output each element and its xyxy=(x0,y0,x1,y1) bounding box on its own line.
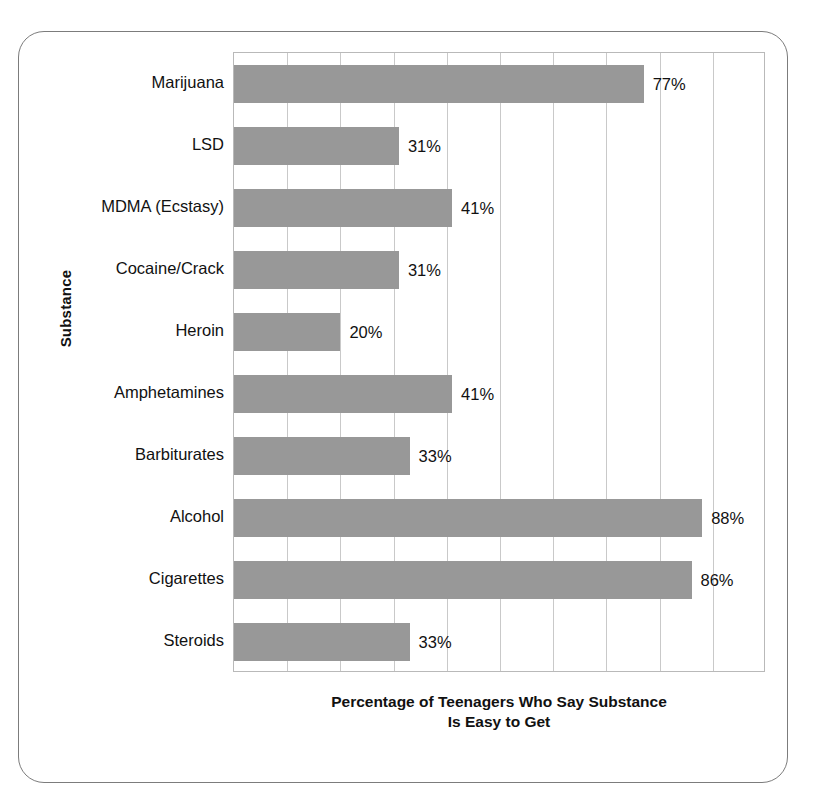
bar xyxy=(234,65,644,103)
y-axis-tick-label: LSD xyxy=(60,136,224,153)
bar xyxy=(234,437,410,475)
bar xyxy=(234,561,692,599)
bar-value-label: 33% xyxy=(410,623,452,661)
bar xyxy=(234,313,340,351)
y-axis-tick-label: Amphetamines xyxy=(60,384,224,401)
plot-area: 77%31%41%31%20%41%33%88%86%33% xyxy=(233,52,765,672)
bar-value-label: 86% xyxy=(692,561,734,599)
bar-value-label: 20% xyxy=(340,313,382,351)
bar xyxy=(234,251,399,289)
y-axis-tick-label: Alcohol xyxy=(60,508,224,525)
bar xyxy=(234,375,452,413)
x-axis-title-line-1: Percentage of Teenagers Who Say Substanc… xyxy=(331,693,667,710)
bar-value-label: 41% xyxy=(452,189,494,227)
bar-value-label: 41% xyxy=(452,375,494,413)
y-axis-tick-label: Heroin xyxy=(60,322,224,339)
x-axis-title: Percentage of Teenagers Who Say Substanc… xyxy=(233,692,765,733)
bar xyxy=(234,499,702,537)
y-axis-tick-label: Barbiturates xyxy=(60,446,224,463)
bar-value-label: 31% xyxy=(399,251,441,289)
y-axis-tick-label: MDMA (Ecstasy) xyxy=(60,198,224,215)
y-axis-tick-label: Steroids xyxy=(60,632,224,649)
bar xyxy=(234,189,452,227)
bar-value-label: 77% xyxy=(644,65,686,103)
bar-value-label: 31% xyxy=(399,127,441,165)
bar-value-label: 33% xyxy=(410,437,452,475)
chart-figure: Substance MarijuanaLSDMDMA (Ecstasy)Coca… xyxy=(0,0,819,812)
y-axis-tick-label: Cigarettes xyxy=(60,570,224,587)
y-axis-tick-labels: MarijuanaLSDMDMA (Ecstasy)Cocaine/CrackH… xyxy=(60,52,224,672)
bar xyxy=(234,127,399,165)
x-axis-title-line-2: Is Easy to Get xyxy=(448,713,551,730)
y-axis-tick-label: Cocaine/Crack xyxy=(60,260,224,277)
bar-value-label: 88% xyxy=(702,499,744,537)
y-axis-tick-label: Marijuana xyxy=(60,74,224,91)
bar xyxy=(234,623,410,661)
